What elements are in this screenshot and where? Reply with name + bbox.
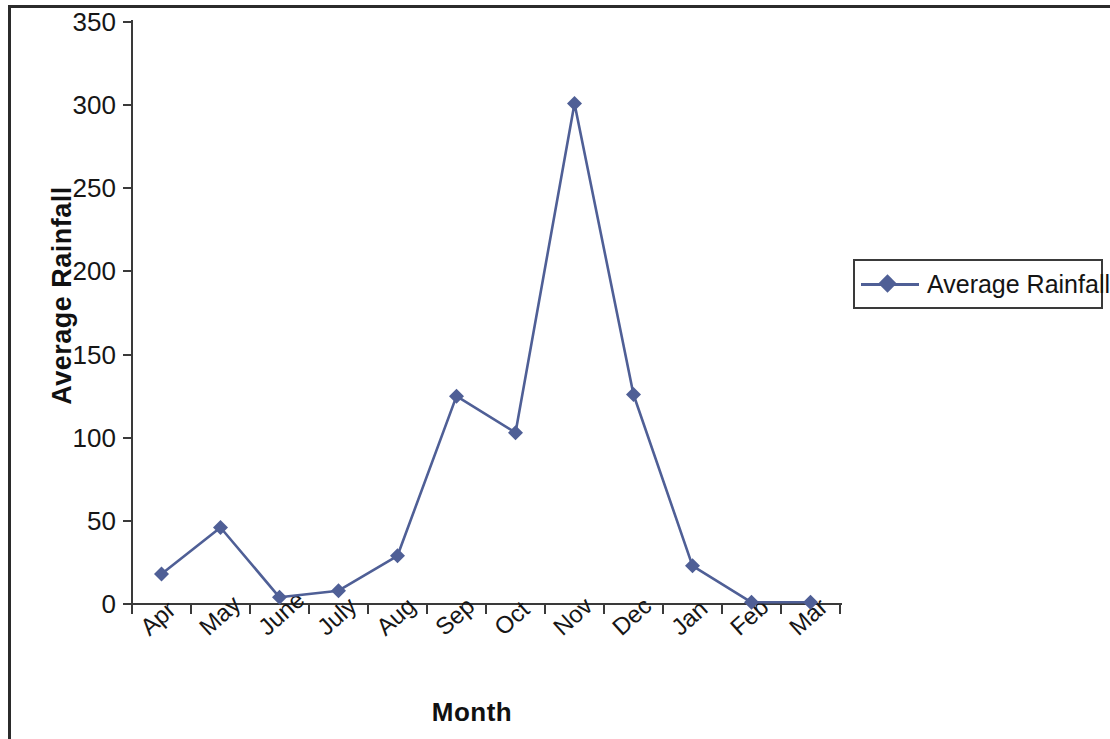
data-point-marker — [567, 96, 582, 111]
y-axis-tick-label: 0 — [52, 591, 116, 617]
x-axis-tick — [426, 604, 428, 614]
x-axis-tick-label: Nov — [549, 593, 597, 639]
x-axis-tick-label: June — [254, 587, 309, 640]
y-axis-tick-label: 350 — [52, 9, 116, 35]
y-axis-tick — [123, 520, 132, 522]
x-axis-tick — [485, 604, 487, 614]
data-point-marker — [626, 387, 641, 402]
x-axis-title: Month — [332, 697, 612, 728]
series-line-average-rainfall — [162, 104, 811, 603]
data-point-marker — [685, 558, 700, 573]
diamond-marker-icon — [861, 274, 919, 294]
x-axis-tick — [780, 604, 782, 614]
y-axis-tick-label: 50 — [52, 508, 116, 534]
y-axis-tick — [123, 187, 132, 189]
data-point-marker — [449, 389, 464, 404]
y-axis-tick — [123, 354, 132, 356]
x-axis-tick-label: Feb — [726, 594, 773, 640]
data-point-marker — [154, 567, 169, 582]
y-axis-tick — [123, 437, 132, 439]
data-point-marker — [508, 425, 523, 440]
x-axis-tick-label: Sep — [431, 593, 479, 639]
x-axis-tick — [603, 604, 605, 614]
x-axis-tick-label: May — [195, 592, 245, 640]
legend-label: Average Rainfall — [919, 272, 1110, 297]
data-point-marker — [390, 548, 405, 563]
x-axis-tick — [367, 604, 369, 614]
x-axis-tick — [544, 604, 546, 614]
x-axis-tick — [721, 604, 723, 614]
x-axis-tick-label: Dec — [608, 593, 656, 639]
y-axis-title: Average Rainfall — [47, 146, 78, 446]
x-axis-tick-label: July — [313, 593, 361, 639]
x-axis-tick — [190, 604, 192, 614]
legend-entry-average-rainfall: Average Rainfall — [855, 272, 1110, 297]
x-axis-tick — [839, 604, 841, 614]
y-axis-tick — [123, 270, 132, 272]
x-axis-tick-label: Mar — [785, 594, 832, 639]
y-axis-line — [131, 20, 133, 606]
y-axis-tick — [123, 21, 132, 23]
x-axis-tick-label: Aug — [372, 593, 420, 639]
chart-legend: Average Rainfall — [853, 259, 1103, 309]
x-axis-tick — [131, 604, 133, 614]
x-axis-tick — [662, 604, 664, 614]
data-point-marker — [213, 520, 228, 535]
y-axis-tick-label: 300 — [52, 92, 116, 118]
y-axis-tick — [123, 104, 132, 106]
x-axis-tick — [249, 604, 251, 614]
line-chart: 050100150200250300350 AprMayJuneJulyAugS… — [0, 0, 1110, 739]
